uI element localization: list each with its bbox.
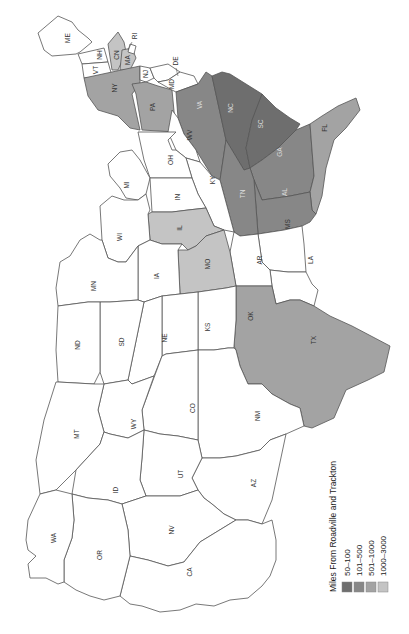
legend-label-0: 50–100 [343, 549, 352, 576]
label-OK: OK [247, 311, 254, 321]
legend-item-1: 101–500 [354, 544, 364, 592]
label-FL: FL [321, 124, 328, 132]
label-IN: IN [174, 193, 181, 200]
us-choropleth-map: ME NH VT CN MA RI NY NJ PA DE MD VA WV N… [0, 0, 409, 634]
label-UT: UT [177, 470, 184, 479]
state-FL [310, 98, 360, 214]
legend: Miles From Roadville and Trackton 50–100… [328, 461, 388, 592]
label-TN: TN [239, 189, 246, 198]
state-OR [64, 494, 130, 600]
label-ID: ID [112, 486, 119, 493]
legend-item-3: 1000–3000 [378, 535, 388, 592]
state-UT [140, 430, 202, 496]
label-ME: ME [64, 32, 71, 42]
legend-swatch-0 [342, 582, 352, 592]
state-KS [162, 292, 198, 356]
legend-swatch-1 [354, 582, 364, 592]
legend-label-2: 501–1000 [367, 540, 376, 576]
label-VT: VT [92, 66, 99, 74]
label-MA: MA [124, 54, 131, 64]
label-MI: MI [123, 181, 130, 188]
legend-label-3: 1000–3000 [379, 535, 388, 576]
legend-title: Miles From Roadville and Trackton [328, 461, 338, 592]
label-OH: OH [167, 155, 174, 165]
label-PA: PA [149, 102, 156, 111]
legend-item-2: 501–1000 [366, 540, 376, 592]
state-RI [128, 44, 136, 54]
label-SD: SD [118, 337, 125, 346]
legend-item-0: 50–100 [342, 549, 352, 592]
label-AZ: AZ [250, 479, 257, 487]
label-CO: CO [189, 403, 196, 413]
label-NE: NE [161, 333, 168, 343]
label-CA: CA [186, 567, 193, 577]
label-DE: DE [172, 56, 179, 66]
label-MS: MS [284, 218, 291, 228]
label-WI: WI [116, 233, 123, 241]
label-NC: NC [227, 103, 234, 113]
label-NV: NV [168, 525, 175, 535]
label-KY: KY [209, 175, 216, 184]
label-GA: GA [276, 147, 283, 157]
label-VA: VA [196, 100, 203, 109]
label-MT: MT [73, 429, 80, 438]
label-AL: AL [281, 188, 288, 196]
label-NM: NM [254, 411, 261, 421]
label-LA: LA [307, 255, 314, 264]
state-OK [198, 286, 236, 350]
legend-label-1: 101–500 [355, 544, 364, 576]
label-MO: MO [204, 259, 211, 269]
label-CT: CN [113, 50, 120, 60]
legend-swatch-3 [378, 582, 388, 592]
label-KS: KS [204, 322, 211, 331]
label-AR: AR [256, 255, 263, 264]
label-TX: TX [310, 335, 317, 344]
label-NH: NH [96, 50, 103, 60]
label-IL: IL [176, 225, 183, 231]
label-WV: WV [186, 129, 193, 140]
state-IA [138, 240, 182, 302]
label-MN: MN [90, 281, 97, 291]
label-OR: OR [96, 550, 103, 560]
label-NJ: NJ [142, 70, 149, 78]
label-RI: RI [131, 33, 138, 40]
label-NY: NY [111, 83, 118, 93]
label-WY: WY [130, 418, 137, 429]
label-WA: WA [50, 532, 57, 543]
label-SC: SC [257, 119, 264, 128]
label-ND: ND [74, 340, 81, 350]
label-IA: IA [153, 272, 160, 279]
label-MD: MD [168, 79, 175, 89]
legend-swatch-2 [366, 582, 376, 592]
